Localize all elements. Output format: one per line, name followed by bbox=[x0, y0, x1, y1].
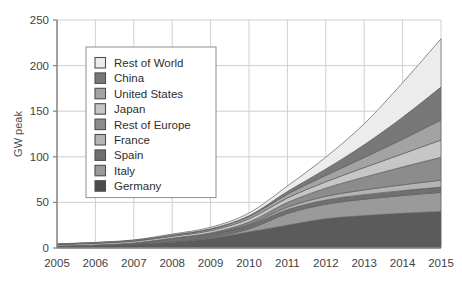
legend-swatch bbox=[95, 88, 106, 99]
x-tick-label: 2006 bbox=[83, 257, 109, 269]
y-tick-label: 100 bbox=[30, 151, 49, 163]
y-tick-label: 200 bbox=[30, 60, 49, 72]
legend-label: United States bbox=[114, 88, 183, 100]
y-tick-label: 50 bbox=[36, 196, 49, 208]
legend-item-france[interactable]: France bbox=[95, 134, 150, 146]
bottom-cropped-text bbox=[0, 290, 462, 304]
legend-item-italy[interactable]: Italy bbox=[95, 165, 135, 177]
x-tick-label: 2009 bbox=[198, 257, 224, 269]
chart-legend: Rest of WorldChinaUnited StatesJapanRest… bbox=[86, 47, 216, 198]
legend-swatch bbox=[95, 58, 106, 69]
legend-swatch bbox=[95, 119, 106, 130]
x-tick-label: 2008 bbox=[159, 257, 185, 269]
legend-swatch bbox=[95, 135, 106, 146]
legend-label: Italy bbox=[114, 165, 135, 177]
legend-item-china[interactable]: China bbox=[95, 72, 145, 84]
stacked-area-chart: 050100150200250 200520062007200820092010… bbox=[0, 0, 462, 304]
x-tick-label: 2005 bbox=[44, 257, 70, 269]
y-tick-label: 150 bbox=[30, 105, 49, 117]
y-axis-label: GW peak bbox=[12, 111, 24, 157]
legend-label: Rest of World bbox=[114, 57, 183, 69]
x-tick-label: 2014 bbox=[390, 257, 416, 269]
legend-swatch bbox=[95, 150, 106, 161]
legend-label: Rest of Europe bbox=[114, 119, 191, 131]
chart-canvas: 050100150200250 200520062007200820092010… bbox=[0, 0, 462, 304]
x-tick-label: 2012 bbox=[313, 257, 339, 269]
legend-label: Spain bbox=[114, 149, 143, 161]
legend-swatch bbox=[95, 181, 106, 192]
x-tick-label: 2007 bbox=[121, 257, 147, 269]
legend-swatch bbox=[95, 165, 106, 176]
legend-swatch bbox=[95, 104, 106, 115]
y-tick-label: 250 bbox=[30, 14, 49, 26]
legend-item-japan[interactable]: Japan bbox=[95, 103, 145, 115]
x-axis-ticks: 2005200620072008200920102011201220132014… bbox=[44, 257, 454, 269]
legend-item-spain[interactable]: Spain bbox=[95, 149, 143, 161]
legend-label: China bbox=[114, 72, 145, 84]
legend-label: Japan bbox=[114, 103, 145, 115]
legend-swatch bbox=[95, 73, 106, 84]
x-tick-label: 2011 bbox=[275, 257, 300, 269]
x-tick-label: 2015 bbox=[428, 257, 454, 269]
x-tick-label: 2013 bbox=[351, 257, 377, 269]
y-axis-ticks: 050100150200250 bbox=[30, 14, 57, 254]
legend-label: Germany bbox=[114, 180, 162, 192]
x-tick-label: 2010 bbox=[236, 257, 262, 269]
legend-label: France bbox=[114, 134, 150, 146]
y-tick-label: 0 bbox=[43, 242, 49, 254]
top-cropped-text bbox=[0, 0, 462, 12]
legend-item-germany[interactable]: Germany bbox=[95, 180, 162, 192]
